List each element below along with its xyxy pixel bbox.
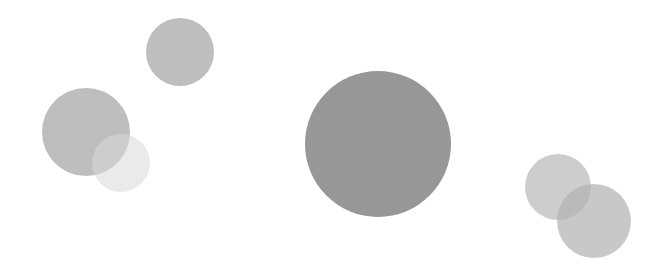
circle-top-left-small	[146, 18, 214, 86]
circle-right-lower	[557, 184, 631, 258]
circle-left-faint	[92, 134, 150, 192]
circle-center-big	[305, 71, 451, 217]
canvas	[0, 0, 657, 270]
